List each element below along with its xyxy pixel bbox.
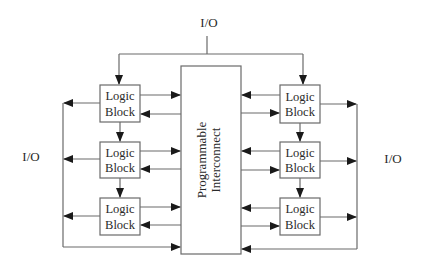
io-label-top: I/O [200, 15, 217, 30]
left-interconnect-links [140, 95, 181, 225]
logic-block-right-1: Logic Block [280, 85, 320, 123]
svg-text:Logic: Logic [105, 89, 135, 103]
logic-block-right-2: Logic Block [280, 142, 320, 178]
svg-text:Logic: Logic [105, 202, 135, 216]
svg-text:Block: Block [105, 218, 136, 232]
logic-block-left-2: Logic Block [100, 142, 140, 178]
interconnect-label-line1: Programmable [194, 122, 209, 199]
svg-text:Logic: Logic [285, 202, 315, 216]
io-label-right: I/O [384, 151, 401, 166]
svg-text:Logic: Logic [285, 90, 315, 104]
io-label-left: I/O [22, 149, 39, 164]
logic-block-left-3: Logic Block [100, 198, 140, 235]
logic-block-left-1: Logic Block [100, 85, 140, 122]
svg-text:Block: Block [285, 218, 316, 232]
svg-text:Logic: Logic [285, 146, 315, 160]
svg-text:Block: Block [285, 161, 316, 175]
svg-text:Logic: Logic [105, 146, 135, 160]
right-interconnect-links [241, 95, 280, 226]
programmable-interconnect: Programmable Interconnect [181, 66, 241, 254]
interconnect-label-line2: Interconnect [208, 127, 223, 192]
fpga-architecture-diagram: I/O Programmable Interconnect Logic Bloc… [0, 0, 421, 270]
svg-text:Block: Block [105, 161, 136, 175]
logic-block-right-3: Logic Block [280, 198, 320, 235]
svg-text:Block: Block [285, 105, 316, 119]
svg-text:Block: Block [105, 105, 136, 119]
